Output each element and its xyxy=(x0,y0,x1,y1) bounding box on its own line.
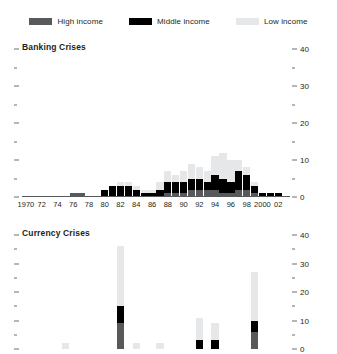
bar-column-1982 xyxy=(117,246,124,349)
y-axis-tick-15 xyxy=(292,306,295,307)
x-axis-label-1990: 90 xyxy=(179,200,187,209)
y-axis-tick-30: 30 xyxy=(292,82,309,91)
y-axis-tick-label: 10 xyxy=(300,156,309,165)
y-axis-tick-20 xyxy=(14,123,19,124)
bar-segment-low-income-1990 xyxy=(180,171,187,182)
tick-mark-icon xyxy=(292,160,297,161)
bar-column-1987 xyxy=(156,343,163,349)
bar-segment-middle-income-1988 xyxy=(164,182,171,193)
bar-segment-low-income-1992 xyxy=(196,167,203,178)
y-axis-tick-label: 0 xyxy=(300,193,304,202)
y-axis-tick-label: 10 xyxy=(300,316,309,325)
bar-segment-low-income-1994 xyxy=(211,156,218,175)
bar-column-1988 xyxy=(164,171,171,197)
bar-segment-middle-income-1998 xyxy=(243,175,250,190)
tick-mark-icon xyxy=(292,235,297,236)
y-axis-tick-30 xyxy=(14,86,19,87)
bar-segment-low-income-1982 xyxy=(117,246,124,306)
y-axis-tick-5 xyxy=(14,178,17,179)
bar-segment-middle-income-1991 xyxy=(188,179,195,190)
plot-area-currency xyxy=(22,235,290,349)
y-axis-tick-40: 40 xyxy=(292,45,309,54)
tick-mark-icon xyxy=(14,277,17,278)
bar-column-1992 xyxy=(196,318,203,349)
tick-mark-icon xyxy=(14,67,17,68)
tick-mark-icon xyxy=(292,349,297,350)
bar-column-1989 xyxy=(172,175,179,197)
bar-segment-middle-income-1992 xyxy=(196,179,203,190)
bar-column-1987 xyxy=(156,182,163,197)
y-axis-tick-5 xyxy=(292,334,295,335)
bar-segment-low-income-1975 xyxy=(62,343,69,349)
y-axis-tick-10: 10 xyxy=(292,156,309,165)
x-axis-label-1998: 98 xyxy=(242,200,250,209)
bar-column-1995 xyxy=(219,153,226,197)
y-axis-tick-0: 0 xyxy=(292,345,304,354)
chart-legend: High income Middle income Low income xyxy=(0,14,337,28)
legend-label-low-income: Low income xyxy=(264,17,308,26)
tick-mark-icon xyxy=(14,249,17,250)
bar-segment-middle-income-1997 xyxy=(235,171,242,190)
bar-column-1982 xyxy=(117,182,124,197)
y-axis-tick-label: 40 xyxy=(300,231,309,240)
x-axis-label-1984: 84 xyxy=(132,200,140,209)
bar-segment-middle-income-1990 xyxy=(180,182,187,193)
tick-mark-icon xyxy=(14,197,19,198)
y-axis-tick-label: 20 xyxy=(300,288,309,297)
tick-mark-icon xyxy=(14,334,17,335)
bar-column-1999 xyxy=(251,182,258,197)
tick-mark-icon xyxy=(14,178,17,179)
y-axis-tick-5 xyxy=(292,178,295,179)
y-axis-tick-25 xyxy=(14,104,17,105)
bar-segment-middle-income-1999 xyxy=(251,321,258,332)
x-axis-label-1982: 82 xyxy=(116,200,124,209)
bar-segment-middle-income-1989 xyxy=(172,182,179,193)
tick-mark-icon xyxy=(292,277,295,278)
tick-mark-icon xyxy=(292,104,295,105)
bar-segment-low-income-1998 xyxy=(243,167,250,174)
bar-column-1992 xyxy=(196,167,203,197)
y-axis-tick-15 xyxy=(14,141,17,142)
x-axis-label-1978: 78 xyxy=(85,200,93,209)
bar-segment-low-income-1984 xyxy=(133,343,140,349)
tick-mark-icon xyxy=(292,320,297,321)
y-axis-tick-25 xyxy=(14,277,17,278)
tick-mark-icon xyxy=(292,263,297,264)
tick-mark-icon xyxy=(14,141,17,142)
bar-segment-middle-income-1995 xyxy=(219,179,226,194)
bar-column-1993 xyxy=(204,171,211,197)
x-axis-label-2000: 2000 xyxy=(254,200,271,209)
legend-entry-high-income: High income xyxy=(29,17,103,26)
bar-segment-high-income-1999 xyxy=(251,332,258,349)
bar-column-1983 xyxy=(125,182,132,197)
bar-segment-middle-income-1982 xyxy=(117,306,124,323)
x-axis-label-1992: 92 xyxy=(195,200,203,209)
x-axis-label-1980: 80 xyxy=(101,200,109,209)
bar-segment-low-income-1988 xyxy=(164,171,171,182)
y-axis-tick-35 xyxy=(14,249,17,250)
y-axis-tick-20: 20 xyxy=(292,288,309,297)
tick-mark-icon xyxy=(292,141,295,142)
legend-label-high-income: High income xyxy=(57,17,103,26)
y-axis-tick-40: 40 xyxy=(292,231,309,240)
tick-mark-icon xyxy=(292,123,297,124)
bar-column-1994 xyxy=(211,323,218,349)
tick-mark-icon xyxy=(14,123,19,124)
bar-column-1984 xyxy=(133,343,140,349)
plot-area-banking xyxy=(22,49,290,197)
y-axis-tick-label: 30 xyxy=(300,259,309,268)
bar-segment-low-income-1999 xyxy=(251,272,258,320)
y-axis-tick-25 xyxy=(292,277,295,278)
tick-mark-icon xyxy=(14,263,19,264)
bar-segment-low-income-1987 xyxy=(156,343,163,349)
bar-segment-middle-income-1992 xyxy=(196,340,203,349)
tick-mark-icon xyxy=(292,334,295,335)
bar-segment-low-income-1997 xyxy=(235,160,242,171)
y-axis-tick-35 xyxy=(14,67,17,68)
x-axis-label-1986: 86 xyxy=(148,200,156,209)
y-axis-tick-40 xyxy=(14,49,19,50)
bar-segment-low-income-1987 xyxy=(156,182,163,189)
y-axis-tick-0 xyxy=(14,197,19,198)
y-axis-tick-label: 0 xyxy=(300,345,304,354)
tick-mark-icon xyxy=(14,104,17,105)
